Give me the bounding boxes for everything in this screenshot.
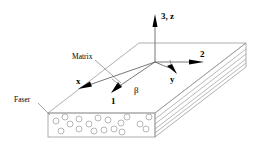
coordinate-axes [78, 14, 204, 93]
axis-y-arrow-icon [167, 64, 177, 74]
axis-2-arrow-icon [189, 60, 204, 65]
matrix-leader-line [95, 60, 121, 83]
laminate-diagram: 3, z 2 x y 1 β Matrix Faser [0, 0, 260, 147]
fiber-cross-sections [53, 114, 152, 135]
label-axis-x: x [76, 76, 81, 86]
axis-y-line [155, 62, 170, 68]
label-matrix: Matrix [72, 52, 93, 61]
label-axis-3z: 3, z [161, 11, 174, 21]
axis-3z-arrow-icon [153, 14, 158, 27]
label-axis-2: 2 [200, 49, 205, 59]
fiber-leader-line [38, 103, 50, 115]
axis-1-arrow-icon [111, 82, 122, 93]
label-angle-beta: β [134, 85, 139, 95]
label-axis-y: y [170, 74, 175, 84]
label-fiber: Faser [14, 95, 31, 104]
label-axis-1: 1 [111, 96, 116, 106]
axis-1-line [118, 62, 155, 87]
